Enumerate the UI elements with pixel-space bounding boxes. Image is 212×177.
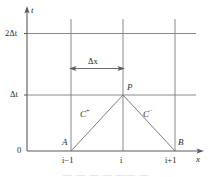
- x-axis-label: x: [196, 155, 200, 164]
- x-tick-label-i-plus-1: i+1: [165, 156, 176, 165]
- point-label-a: A: [62, 138, 68, 147]
- characteristic-label-c-plus: C+: [80, 108, 90, 119]
- figure-caption: — — — — —— —: [0, 169, 212, 177]
- characteristic-c-minus-sup: −: [149, 107, 153, 114]
- point-label-p: P: [127, 83, 133, 92]
- x-tick-label-i-minus-1: i−1: [62, 156, 73, 165]
- characteristic-label-c-minus: C−: [143, 108, 153, 119]
- characteristic-c-plus-line: [71, 95, 123, 151]
- point-label-b: B: [178, 138, 184, 147]
- figure-canvas: [0, 0, 212, 177]
- characteristic-c-minus-line: [123, 95, 175, 151]
- y-tick-label-dt: Δt: [10, 90, 18, 99]
- dimension-label-dx: Δx: [88, 57, 98, 66]
- y-tick-label-2dt: 2Δt: [5, 29, 17, 38]
- t-axis-label: t: [31, 6, 34, 15]
- characteristic-c-plus-sup: +: [86, 107, 90, 114]
- x-tick-label-i: i: [120, 156, 122, 165]
- figure-container: t x 0 2Δt Δt i−1 i i+1 A B P C+ C− Δx — …: [0, 0, 212, 177]
- origin-label: 0: [17, 146, 21, 155]
